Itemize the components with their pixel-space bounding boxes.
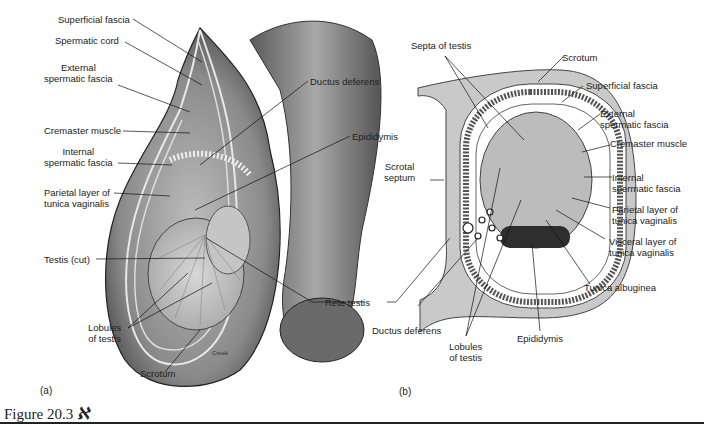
label-epididymis-b: Epididymis [517, 333, 563, 344]
label-scrotal-septum-b: Scrotal septum [384, 161, 415, 183]
scrotum-drawing [106, 28, 280, 386]
label-parietal-layer-b: Parietal layer of tunica vaginalis [612, 204, 678, 226]
label-testis-cut-a: Testis (cut) [44, 254, 90, 265]
label-parietal-layer-a: Parietal layer of tunica vaginalis [44, 187, 110, 209]
caption-divider [0, 422, 704, 424]
figure-title: Figure 20.3 [4, 406, 73, 422]
label-internal-spermatic-fascia-b: Internal spermatic fascia [612, 172, 681, 194]
artist-credit: Creek [212, 350, 228, 356]
label-tunica-albuginea-b: Tunica albuginea [584, 282, 656, 293]
label-superficial-fascia-b: Superficial fascia [586, 80, 658, 91]
label-external-spermatic-fascia-b: External spermatic fascia [600, 108, 669, 130]
label-cremaster-muscle-a: Cremaster muscle [44, 125, 121, 136]
label-external-spermatic-fascia-a: External spermatic fascia [44, 62, 113, 84]
label-superficial-fascia-a: Superficial fascia [58, 14, 130, 25]
label-ductus-deferens-b: Ductus deferens [372, 325, 441, 336]
art-icon: ℵ [77, 405, 89, 422]
label-septa-of-testis-b: Septa of testis [411, 40, 471, 51]
label-scrotum-a: Scrotum [140, 368, 175, 379]
label-epididymis-a: Epididymis [352, 131, 398, 142]
label-scrotum-b: Scrotum [562, 52, 597, 63]
label-visceral-layer-b: Visceral layer of tunica vaginalis [609, 236, 676, 258]
label-lobules-of-testis-b: Lobules of testis [449, 341, 482, 363]
label-internal-spermatic-fascia-a: Internal spermatic fascia [44, 146, 113, 168]
label-lobules-of-testis-a: Lobules of testis [88, 322, 121, 344]
label-cremaster-muscle-b: Cremaster muscle [610, 138, 687, 149]
panel-a-label: (a) [40, 385, 52, 396]
figure-caption: Figure 20.3 ℵ [4, 404, 89, 423]
label-spermatic-cord-a: Spermatic cord [55, 35, 119, 46]
label-ductus-deferens-a: Ductus deferens [310, 76, 379, 87]
panel-b-label: (b) [399, 386, 411, 397]
label-rete-testis-a: Rete testis [325, 297, 370, 308]
